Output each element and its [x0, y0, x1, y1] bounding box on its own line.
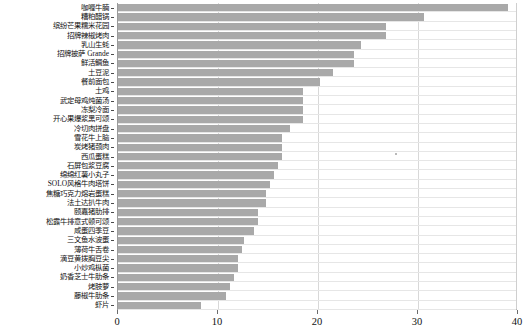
bar: [118, 78, 320, 85]
category-label: 雪花牛上脑: [74, 134, 109, 141]
bar-row: [118, 189, 516, 198]
category-tick: [111, 231, 114, 232]
x-tick: [217, 310, 218, 314]
bar-row: [118, 12, 516, 21]
x-tick: [117, 310, 118, 314]
bar: [118, 153, 282, 160]
x-tick-label: 20: [312, 316, 323, 327]
bar: [118, 302, 201, 309]
bar-row: [118, 68, 516, 77]
category-tick: [111, 26, 114, 27]
bar-row: [118, 245, 516, 254]
bar: [118, 209, 258, 216]
bar-row: [118, 291, 516, 300]
category-tick: [111, 73, 114, 74]
bar: [118, 88, 303, 95]
category-axis: 咖喱牛腩糟粕醋锅缤纷芒果糯米花园招牌辣椒烤肉乳山生蚝招牌披萨 Grande鲜活鲷…: [0, 3, 114, 310]
category-label: 小炒鸡枞菌: [74, 264, 109, 271]
category-label: 滴豆黄拨胸豆尖: [60, 255, 109, 262]
category-tick: [111, 82, 114, 83]
bar: [118, 181, 270, 188]
category-label: 缤纷芒果糯米花园: [53, 22, 109, 29]
category-tick: [111, 17, 114, 18]
category-label: 薄荷牛舌卷: [74, 246, 109, 253]
horizontal-bar-chart: 咖喱牛腩糟粕醋锅缤纷芒果糯米花园招牌辣椒烤肉乳山生蚝招牌披萨 Grande鲜活鲷…: [0, 0, 530, 335]
bar: [118, 116, 303, 123]
category-label: 法土达扒牛肉: [67, 199, 109, 206]
bar-row: [118, 180, 516, 189]
category-tick: [111, 305, 114, 306]
bar: [118, 190, 266, 197]
bar: [118, 32, 386, 39]
bar: [118, 4, 508, 11]
bar-row: [118, 77, 516, 86]
bar: [118, 41, 361, 48]
x-tick-label: 40: [512, 316, 523, 327]
category-label: 武定母鸡炖菌汤: [60, 97, 109, 104]
category-label: 炭烤猪颈肉: [74, 143, 109, 150]
bar: [118, 292, 226, 299]
category-tick: [111, 277, 114, 278]
bar-row: [118, 105, 516, 114]
bar-row: [118, 31, 516, 40]
category-tick: [111, 203, 114, 204]
bar-row: [118, 170, 516, 179]
bar: [118, 227, 254, 234]
category-label: 奶香芝士牛肋条: [60, 273, 109, 280]
category-tick: [111, 45, 114, 46]
bar: [118, 97, 303, 104]
category-label: 冻梨冷面: [81, 106, 109, 113]
bar: [118, 199, 266, 206]
bar: [118, 125, 290, 132]
bar: [118, 13, 424, 20]
x-tick-label: 10: [212, 316, 223, 327]
x-tick-label: 0: [114, 316, 119, 327]
category-label: 藤椒牛肋条: [74, 292, 109, 299]
x-tick: [417, 310, 418, 314]
bar-row: [118, 263, 516, 272]
category-label: 冷切肉拼盘: [74, 125, 109, 132]
bar-row: [118, 40, 516, 49]
bar: [118, 171, 274, 178]
category-label: 松露牛排意式顿可颂: [46, 218, 109, 225]
category-tick: [111, 250, 114, 251]
category-tick: [111, 194, 114, 195]
category-tick: [111, 63, 114, 64]
category-tick: [111, 287, 114, 288]
category-label: 三文鱼水波蛋: [67, 236, 109, 243]
category-label: 焦糖巧克力熔岩蛋糕: [46, 190, 109, 197]
category-label: 烤肢萝: [88, 283, 109, 290]
category-label: 绵绵红薯小丸子: [60, 171, 109, 178]
bar-row: [118, 152, 516, 161]
category-label: 咸蛋四季豆: [74, 227, 109, 234]
bar-row: [118, 282, 516, 291]
category-tick: [111, 119, 114, 120]
category-label: 虾片: [95, 301, 109, 308]
bar-row: [118, 22, 516, 31]
bar: [118, 283, 230, 290]
bar-row: [118, 236, 516, 245]
category-tick: [111, 110, 114, 111]
category-label: 餐前面包: [81, 78, 109, 85]
plot-area: [117, 3, 517, 310]
category-tick: [111, 222, 114, 223]
bar: [118, 264, 238, 271]
bar-row: [118, 254, 516, 263]
bar-row: [118, 124, 516, 133]
bar: [118, 237, 244, 244]
bar-rows: [118, 3, 516, 309]
bar-row: [118, 217, 516, 226]
bar: [118, 106, 303, 113]
bar: [118, 274, 234, 281]
category-label: 招牌披萨 Grande: [57, 50, 109, 57]
bar: [118, 144, 282, 151]
category-tick: [111, 138, 114, 139]
category-label: 土豆泥: [88, 69, 109, 76]
bar-row: [118, 87, 516, 96]
category-tick: [111, 129, 114, 130]
category-tick: [111, 54, 114, 55]
category-label: 土鸡: [95, 87, 109, 94]
category-tick: [111, 166, 114, 167]
bar: [118, 218, 258, 225]
x-tick-label: 30: [412, 316, 423, 327]
